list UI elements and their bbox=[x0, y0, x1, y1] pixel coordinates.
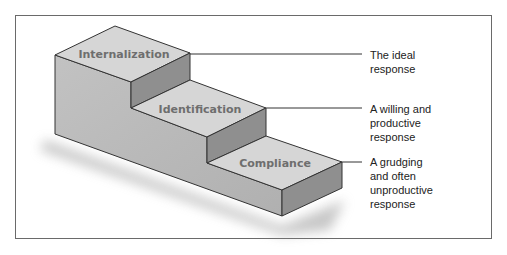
step-label-internalization: Internalization bbox=[78, 48, 169, 61]
response-text-compliance: A grudging and often unproductive respon… bbox=[370, 155, 433, 211]
response-text-internalization: The ideal response bbox=[370, 48, 415, 76]
response-text-identification: A willing and productive response bbox=[370, 102, 431, 144]
step-label-identification: Identification bbox=[159, 103, 242, 116]
step-label-compliance: Compliance bbox=[239, 157, 311, 170]
